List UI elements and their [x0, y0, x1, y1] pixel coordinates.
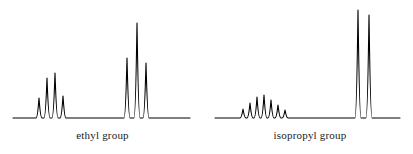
isopropyl-group-trace: [215, 10, 400, 118]
ethyl-group-caption: ethyl group: [0, 130, 205, 141]
isopropyl-group-caption: isopropyl group: [210, 130, 410, 141]
nmr-spectra-figure: ethyl group isopropyl group: [0, 0, 413, 154]
ethyl-group-trace: [13, 23, 190, 118]
